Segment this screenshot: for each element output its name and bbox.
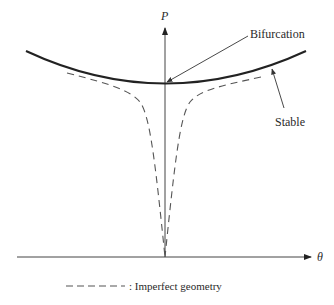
stable-label: Stable	[275, 115, 305, 129]
imperfect-curve-right	[165, 77, 261, 257]
legend-label: : Imperfect geometry	[129, 280, 222, 292]
bifurcation-label: Bifurcation	[250, 27, 305, 41]
p-axis-label: P	[160, 9, 169, 23]
bifurcation-diagram: P θ Bifurcation Stable : Imperfect geome…	[0, 0, 334, 305]
stable-curve	[26, 51, 306, 84]
stable-pointer	[272, 69, 284, 108]
imperfect-curve-left	[67, 73, 165, 257]
theta-axis-label: θ	[317, 250, 323, 264]
